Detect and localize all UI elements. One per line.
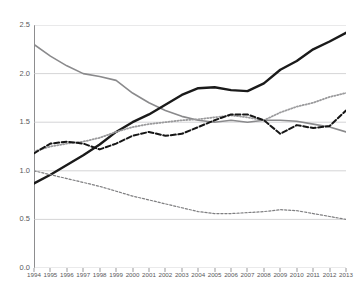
series-line-black-dashed-wavy	[34, 111, 346, 154]
series-line-black-solid-rising	[34, 33, 346, 184]
line-chart: 2.52.01.51.00.50.0 199419951996199719981…	[0, 0, 356, 290]
y-tick-label: 0.5	[20, 216, 30, 224]
y-tick-label: 2.5	[20, 21, 30, 29]
plot-area: 2.52.01.51.00.50.0	[34, 25, 346, 268]
x-tick-label: 2011	[307, 272, 320, 278]
y-tick-label: 1.5	[20, 118, 30, 126]
x-tick-label: 2007	[241, 272, 255, 278]
x-tick-label: 1995	[44, 272, 58, 278]
series-line-gray-fine-dashed-declining	[34, 171, 346, 220]
x-tick-label: 2006	[224, 272, 238, 278]
x-tick-label: 2004	[191, 272, 205, 278]
series-line-gray-solid-declining	[34, 44, 346, 131]
x-tick-label: 2003	[175, 272, 189, 278]
x-tick-label: 1996	[60, 272, 74, 278]
chart-title	[0, 0, 356, 5]
x-tick-label: 2000	[126, 272, 140, 278]
y-tick-label: 1.0	[20, 167, 30, 175]
x-tick-label: 1997	[76, 272, 90, 278]
x-tick-label: 2010	[290, 272, 304, 278]
x-tick-label: 1999	[109, 272, 123, 278]
x-tick-label: 2009	[273, 272, 287, 278]
x-tick-label: 2012	[323, 272, 337, 278]
x-tick-label: 1994	[27, 272, 41, 278]
x-tick-label: 2005	[208, 272, 222, 278]
x-tick-label: 2001	[142, 272, 156, 278]
y-tick-label: 2.0	[20, 70, 30, 78]
x-tick-label: 2008	[257, 272, 271, 278]
x-tick-label: 1998	[93, 272, 107, 278]
x-tick-labels: 1994199519961997199819992000200120022003…	[34, 272, 346, 284]
x-tick-label: 2013	[339, 272, 353, 278]
plot-svg	[34, 25, 346, 268]
x-tick-label: 2002	[158, 272, 172, 278]
